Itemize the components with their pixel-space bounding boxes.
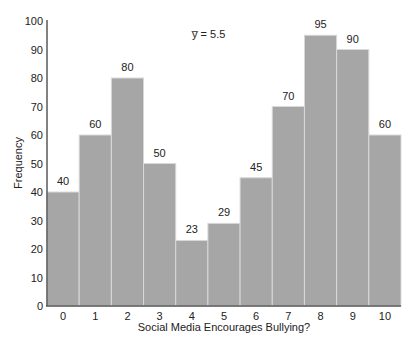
- bar-value-label: 50: [154, 147, 166, 159]
- y-tick-label: 90: [31, 44, 43, 56]
- y-tick-label: 50: [31, 158, 43, 170]
- bar-value-label: 60: [89, 118, 101, 130]
- bar-value-label: 23: [186, 223, 198, 235]
- bars-group: [47, 35, 401, 306]
- y-tick-label: 40: [31, 186, 43, 198]
- bar-2: [111, 78, 143, 306]
- x-tick-label: 8: [317, 310, 323, 322]
- y-tick-label: 100: [25, 15, 43, 27]
- bar-10: [369, 135, 401, 306]
- x-axis-title: Social Media Encourages Bullying?: [138, 321, 310, 333]
- bar-value-label: 95: [314, 18, 326, 30]
- y-tick-label: 80: [31, 72, 43, 84]
- y-tick-label: 30: [31, 215, 43, 227]
- x-tick-label: 1: [92, 310, 98, 322]
- bar-value-label: 45: [250, 161, 262, 173]
- y-tick-label: 0: [37, 300, 43, 312]
- x-tick-label: 10: [379, 310, 391, 322]
- y-axis-title: Frequency: [12, 137, 24, 189]
- bar-value-label: 70: [282, 90, 294, 102]
- y-tick-label: 10: [31, 272, 43, 284]
- bar-3: [144, 164, 176, 307]
- bar-9: [337, 50, 369, 307]
- x-tick-label: 0: [60, 310, 66, 322]
- x-tick-label: 9: [350, 310, 356, 322]
- histogram-chart: 4060805023294570959060 01020304050607080…: [0, 0, 413, 350]
- y-tick-label: 20: [31, 243, 43, 255]
- bar-8: [304, 35, 336, 306]
- y-axis-ticks: 0102030405060708090100: [25, 15, 43, 312]
- bar-1: [79, 135, 111, 306]
- bar-value-label: 80: [121, 61, 133, 73]
- x-tick-label: 2: [124, 310, 130, 322]
- bar-value-label: 90: [347, 33, 359, 45]
- bar-0: [47, 192, 79, 306]
- y-tick-label: 70: [31, 101, 43, 113]
- bar-value-label: 40: [57, 175, 69, 187]
- y-tick-label: 60: [31, 129, 43, 141]
- bar-7: [272, 107, 304, 307]
- mean-annotation: y̅ = 5.5: [191, 28, 226, 40]
- bar-value-label: 60: [379, 118, 391, 130]
- bar-value-label: 29: [218, 206, 230, 218]
- bar-6: [240, 178, 272, 306]
- bar-4: [176, 240, 208, 306]
- bar-5: [208, 223, 240, 306]
